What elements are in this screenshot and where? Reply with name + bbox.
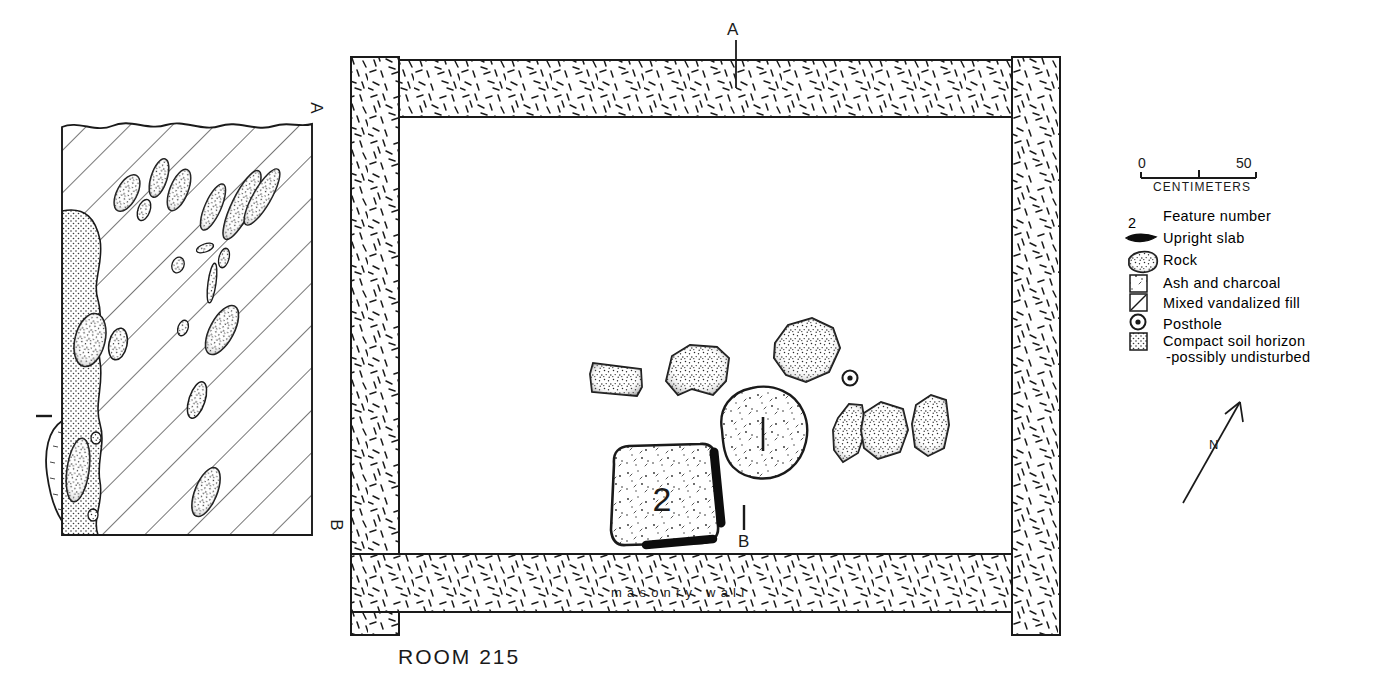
rock: [861, 402, 908, 459]
masonry-wall-right: [1012, 57, 1060, 635]
legend-label-0: Feature number: [1163, 208, 1271, 224]
legend-label-3: Ash and charcoal: [1163, 275, 1281, 291]
feature-number-2: 2: [653, 480, 672, 518]
archaeological-site-plan-figure: 2 2: [0, 0, 1383, 687]
rock: [912, 395, 949, 456]
scale-bar-max-label: 50: [1236, 155, 1252, 171]
legend-symbol-upright-slab: [1126, 234, 1156, 242]
legend-label-4: Mixed vandalized fill: [1163, 295, 1300, 311]
scale-bar-min-label: 0: [1138, 155, 1146, 171]
profile-feature-1-basin: [46, 421, 62, 521]
section-marker-b-plan: B: [738, 532, 749, 552]
upright-slab-bottom: [646, 539, 713, 545]
legend-symbols: [1126, 234, 1157, 350]
north-arrow: [1183, 402, 1243, 503]
profile-rock: [91, 432, 101, 444]
legend-symbol-posthole: [1131, 315, 1146, 330]
legend-symbol-feature-number: 2: [1128, 215, 1136, 231]
section-marker-a-profile: A: [306, 102, 326, 113]
profile-section: [36, 115, 320, 545]
legend-symbol-compact-soil-horizon: [1130, 333, 1147, 350]
masonry-wall-top: [399, 60, 1031, 117]
masonry-wall-bottom: [351, 554, 1012, 612]
legend-label-1: Upright slab: [1163, 230, 1245, 246]
scale-bar: [1141, 170, 1256, 178]
posthole: [843, 371, 858, 386]
legend-symbol-ash-and-charcoal: [1130, 275, 1147, 292]
section-marker-a-plan: A: [727, 20, 738, 40]
hearth-feature-1: [721, 387, 807, 479]
masonry-wall-label: masonry wall: [611, 585, 749, 600]
legend-label-6: Compact soil horizon: [1163, 333, 1305, 349]
profile-rock: [88, 509, 98, 521]
legend-label-5: Posthole: [1163, 316, 1222, 332]
hearth-feature-2: 2: [611, 444, 721, 545]
legend-text: 2 Feature number Upright slab Rock Ash a…: [1128, 208, 1310, 365]
masonry-wall-left: [351, 57, 399, 635]
legend-label-2: Rock: [1163, 252, 1198, 268]
legend-compact-soil-subtext: -possibly undisturbed: [1166, 349, 1310, 365]
legend-symbol-rock: [1129, 252, 1157, 273]
section-marker-b-profile: B: [326, 519, 346, 530]
room-plan: 2: [351, 40, 1060, 635]
legend-symbol-mixed-vandalized-fill: [1130, 294, 1147, 311]
figure-canvas: 2 2: [0, 0, 1383, 687]
north-arrow-label: N: [1209, 437, 1218, 452]
page-title: ROOM 215: [398, 645, 520, 669]
rock: [590, 363, 642, 396]
scale-bar-units-label: CENTIMETERS: [1153, 180, 1251, 194]
